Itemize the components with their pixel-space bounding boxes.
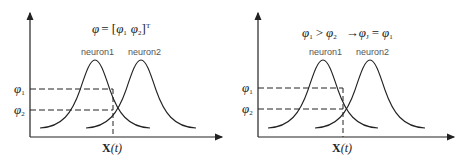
neuron1-label: neuron1 [81, 47, 114, 57]
phi2-label: φ2 [242, 101, 253, 117]
panel-right: φ1>φ2→φJ=φ1 neuron1 neuron2 φ1 φ2 X(t) [242, 13, 454, 155]
phi1-label: φ1 [14, 81, 25, 97]
formula-title: φ1>φ2→φJ=φ1 [302, 25, 393, 41]
formula-title: φ= [φ1φ2]T [92, 21, 151, 37]
neuron2-label: neuron2 [128, 47, 161, 57]
phi1-label: φ1 [242, 80, 253, 96]
neuron1-label: neuron1 [309, 47, 342, 57]
panel-left: φ= [φ1φ2]T neuron1 neuron2 φ1 φ2 X(t) [14, 13, 222, 155]
x-axis-label: X(t) [332, 141, 352, 155]
x-axis-label: X(t) [102, 141, 122, 155]
neuron2-label: neuron2 [356, 47, 389, 57]
diagram-canvas: φ= [φ1φ2]T neuron1 neuron2 φ1 φ2 X(t) φ1… [0, 0, 468, 162]
phi2-label: φ2 [14, 102, 25, 118]
